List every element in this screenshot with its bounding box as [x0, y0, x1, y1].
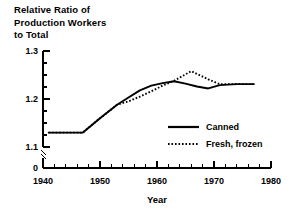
y-tick-label-1-1: 1.1	[25, 142, 38, 152]
legend-label-canned: Canned	[206, 122, 239, 132]
y-tick-label-1-3: 1.3	[25, 46, 38, 56]
x-tick-label-1970: 1970	[204, 176, 224, 186]
legend-label-fresh-frozen: Fresh, frozen	[206, 139, 263, 149]
x-axis-title: Year	[147, 194, 167, 205]
x-tick-label-1960: 1960	[147, 176, 167, 186]
y-axis-break-label-zero: 0	[33, 163, 38, 173]
x-tick-label-1940: 1940	[33, 176, 53, 186]
x-tick-label-1980: 1980	[261, 176, 281, 186]
x-tick-label-1950: 1950	[90, 176, 110, 186]
legend: Canned Fresh, frozen	[168, 122, 263, 149]
y-tick-label-1-2: 1.2	[25, 94, 38, 104]
chart-figure: Relative Ratio of Production Workers to …	[0, 0, 298, 211]
line-chart-plot: 1.3 1.2 1.1 0 1940 1950 1960 1970 1980	[0, 0, 298, 211]
